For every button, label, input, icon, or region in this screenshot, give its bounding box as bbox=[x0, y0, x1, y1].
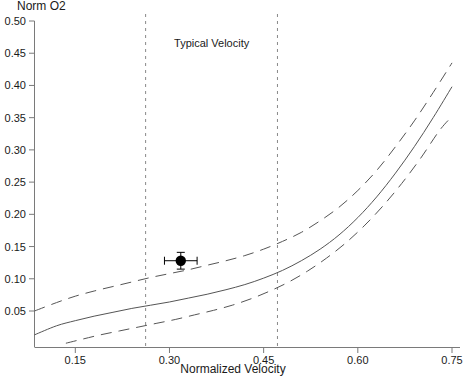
y-tick-label: 0.10 bbox=[0, 273, 26, 285]
axes-group bbox=[35, 21, 461, 348]
typical-velocity-label: Typical Velocity bbox=[174, 37, 249, 50]
y-tick-label: 0.35 bbox=[0, 112, 26, 124]
y-tick-label: 0.40 bbox=[0, 79, 26, 91]
chart-figure: Norm O2 0.050.100.150.200.250.300.350.40… bbox=[0, 0, 466, 380]
y-tick-label: 0.05 bbox=[0, 305, 26, 317]
y-tick-label: 0.45 bbox=[0, 47, 26, 59]
x-axis-ticks bbox=[75, 348, 452, 354]
vertical-reference-lines bbox=[146, 14, 278, 347]
x-axis-title: Normalized Velocity bbox=[0, 362, 466, 376]
curve-lower-bound bbox=[66, 116, 452, 343]
data-curves bbox=[35, 63, 453, 343]
y-tick-label: 0.30 bbox=[0, 144, 26, 156]
measured-point bbox=[164, 252, 197, 269]
point-marker bbox=[176, 256, 186, 266]
y-axis-ticks bbox=[29, 21, 35, 311]
data-points bbox=[164, 252, 197, 269]
y-axis-title: Norm O2 bbox=[17, 0, 66, 13]
y-tick-label: 0.20 bbox=[0, 208, 26, 220]
y-tick-label: 0.50 bbox=[0, 15, 26, 27]
plot-canvas bbox=[0, 0, 466, 380]
y-tick-label: 0.25 bbox=[0, 176, 26, 188]
curve-central-estimate bbox=[35, 87, 453, 335]
curve-upper-bound bbox=[35, 63, 453, 311]
y-tick-label: 0.15 bbox=[0, 241, 26, 253]
